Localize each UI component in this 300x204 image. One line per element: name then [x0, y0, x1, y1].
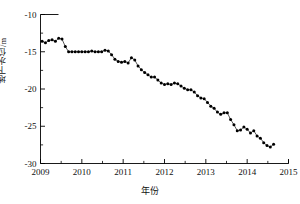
- data-point: [262, 141, 265, 144]
- x-tick-label: 2014: [238, 167, 257, 177]
- data-point: [219, 113, 222, 116]
- data-point: [150, 76, 153, 79]
- data-point: [189, 88, 192, 91]
- data-point: [213, 107, 216, 110]
- tick-marks: [41, 15, 289, 164]
- data-point: [94, 50, 97, 53]
- data-point: [140, 68, 143, 71]
- data-point: [113, 58, 116, 61]
- data-point: [256, 134, 259, 137]
- data-point: [203, 97, 206, 100]
- data-point: [64, 45, 67, 48]
- y-tick-label: -10: [25, 10, 37, 20]
- data-point: [156, 79, 159, 82]
- x-tick-label: 2012: [156, 167, 174, 177]
- data-point: [77, 50, 80, 53]
- y-tick-label: -20: [25, 84, 37, 94]
- data-point: [47, 39, 50, 42]
- data-point: [186, 88, 189, 91]
- data-point: [80, 50, 83, 53]
- data-point: [173, 82, 176, 85]
- data-point: [41, 40, 44, 43]
- data-point: [266, 144, 269, 147]
- data-point: [246, 128, 249, 131]
- data-point: [143, 71, 146, 74]
- data-point: [70, 50, 73, 53]
- data-point: [137, 64, 140, 67]
- data-point: [180, 85, 183, 88]
- data-point: [74, 50, 77, 53]
- data-point: [249, 131, 252, 134]
- data-point: [54, 40, 57, 43]
- tick-labels: -30-25-20-15-102009201020112012201320142…: [25, 10, 299, 177]
- data-point: [67, 50, 70, 53]
- data-point: [130, 56, 133, 59]
- data-point: [123, 60, 126, 63]
- data-point: [272, 143, 275, 146]
- data-point: [160, 82, 163, 85]
- data-point: [107, 50, 110, 53]
- data-point: [196, 94, 199, 97]
- data-point: [44, 41, 47, 44]
- data-point: [117, 60, 120, 63]
- data-point: [252, 129, 255, 132]
- data-point: [87, 50, 90, 53]
- data-point: [259, 137, 262, 140]
- y-axis-title: 地下水位/m: [0, 38, 15, 83]
- data-point: [166, 82, 169, 85]
- plot-canvas: -30-25-20-15-102009201020112012201320142…: [0, 0, 300, 204]
- data-point: [97, 50, 100, 53]
- data-point: [193, 90, 196, 93]
- data-point: [236, 129, 239, 132]
- data-point: [216, 111, 219, 114]
- data-point: [146, 73, 149, 76]
- data-point: [60, 38, 63, 41]
- data-point: [110, 53, 113, 56]
- data-point: [176, 82, 179, 85]
- data-point: [103, 49, 106, 52]
- data-point: [51, 38, 54, 41]
- data-point: [239, 128, 242, 131]
- data-point: [84, 50, 87, 53]
- data-point: [242, 126, 245, 129]
- data-point: [183, 87, 186, 90]
- x-tick-label: 2011: [114, 167, 132, 177]
- data-point: [232, 123, 235, 126]
- axes: [41, 15, 289, 164]
- data-point: [226, 111, 229, 114]
- x-tick-label: 2015: [280, 167, 299, 177]
- data-point: [153, 76, 156, 79]
- data-point: [229, 118, 232, 121]
- data-point: [209, 105, 212, 108]
- y-tick-label: -25: [25, 121, 37, 131]
- data-point: [133, 58, 136, 61]
- data-series: [41, 37, 275, 149]
- chart-figure: 地下水位/m 年份 -30-25-20-15-10200920102011201…: [0, 0, 300, 204]
- data-point: [90, 50, 93, 53]
- data-point: [206, 101, 209, 104]
- series-line: [42, 38, 273, 147]
- x-tick-label: 2010: [73, 167, 92, 177]
- data-point: [269, 146, 272, 149]
- y-tick-label: -15: [25, 47, 37, 57]
- data-point: [57, 37, 60, 40]
- x-axis-title: 年份: [0, 184, 300, 197]
- data-point: [223, 111, 226, 114]
- data-point: [127, 61, 130, 64]
- data-point: [120, 61, 123, 64]
- data-point: [199, 96, 202, 99]
- data-point: [170, 83, 173, 86]
- x-tick-label: 2013: [197, 167, 216, 177]
- data-point: [100, 50, 103, 53]
- data-point: [163, 83, 166, 86]
- x-tick-label: 2009: [32, 167, 51, 177]
